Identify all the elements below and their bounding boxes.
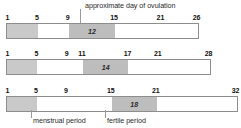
tick-label: 5 — [35, 14, 39, 21]
cycle-bar-28: 14 — [6, 59, 211, 75]
tick-label: 21 — [157, 14, 165, 21]
tick-label: 15 — [110, 14, 118, 21]
tick-label: 1 — [6, 87, 10, 94]
fertile-period-leader-line — [105, 110, 106, 118]
ovulation-day-label: 18 — [130, 101, 138, 108]
tick-label: 32 — [232, 87, 240, 94]
tick-label: 26 — [193, 14, 201, 21]
ovulation-annotation-label: approximate day of ovulation — [85, 1, 176, 10]
tick-label: 9 — [66, 14, 70, 21]
tick-label: 21 — [152, 87, 160, 94]
tick-label: 5 — [34, 87, 38, 94]
tick-label: 21 — [154, 50, 162, 57]
ovulation-day-label: 14 — [102, 64, 110, 71]
tick-label: 1 — [6, 14, 10, 21]
tick-labels-row-28: 15911172128 — [0, 50, 241, 59]
tick-label: 17 — [124, 50, 132, 57]
tick-label: 15 — [107, 87, 115, 94]
tick-label: 9 — [64, 87, 68, 94]
menstrual-period-segment — [7, 24, 38, 38]
menstrual-period-segment — [7, 97, 37, 111]
tick-labels-row-26: 159152126 — [0, 14, 241, 23]
cycle-bar-26: 12 — [6, 23, 199, 39]
cycle-diagram: approximate day of ovulation 159152126 1… — [0, 0, 241, 128]
tick-label: 11 — [78, 50, 85, 57]
fertile-period-segment: 12 — [69, 24, 115, 38]
tick-label: 1 — [6, 50, 10, 57]
tick-labels-row-32: 159152132 — [0, 87, 241, 96]
menstrual-period-segment — [7, 60, 37, 74]
ovulation-day-label: 12 — [88, 28, 96, 35]
fertile-period-segment: 14 — [83, 60, 129, 74]
tick-label: 5 — [34, 50, 38, 57]
tick-label: 9 — [65, 50, 69, 57]
menstrual-period-label: menstrual period — [33, 116, 86, 125]
fertile-period-label: fertile period — [107, 116, 146, 125]
fertile-period-segment: 18 — [112, 97, 157, 111]
tick-label: 28 — [205, 50, 213, 57]
menstrual-period-leader-line — [31, 110, 32, 118]
cycle-bar-32: 18 — [6, 96, 238, 112]
